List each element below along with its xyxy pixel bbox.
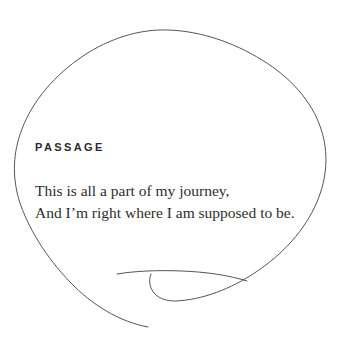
passage-line-1: This is all a part of my journey, xyxy=(35,180,310,202)
blob-tail-stroke xyxy=(117,271,247,281)
passage-content: PASSAGE This is all a part of my journey… xyxy=(35,142,310,224)
passage-body: This is all a part of my journey, And I’… xyxy=(35,153,310,224)
passage-line-2: And I’m right where I am supposed to be. xyxy=(35,202,310,224)
passage-card: PASSAGE This is all a part of my journey… xyxy=(0,0,345,351)
passage-eyebrow-label: PASSAGE xyxy=(35,142,310,153)
